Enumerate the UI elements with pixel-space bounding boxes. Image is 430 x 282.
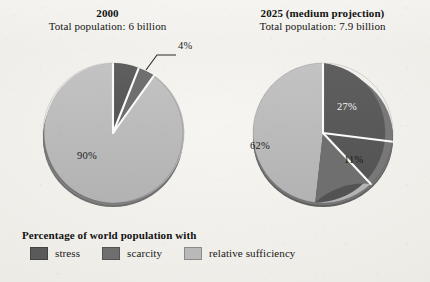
legend-item-scarcity: scarcity xyxy=(102,247,162,260)
slice-label-stress-2025: 27% xyxy=(337,101,357,112)
slice-label-relative-sufficiency-2000: 90% xyxy=(77,150,97,161)
pie-chart-2000: 6% 4% 90% xyxy=(0,0,215,225)
legend-label-relative-sufficiency: relative sufficiency xyxy=(209,247,295,260)
leader-line-scarcity-2000 xyxy=(146,55,176,70)
legend-title: Percentage of world population with xyxy=(22,228,422,242)
legend-label-stress: stress xyxy=(55,247,80,260)
chart-panel-2000: 2000 Total population: 6 billion xyxy=(0,0,215,225)
figure-canvas: 2000 Total population: 6 billion xyxy=(0,0,430,282)
relative-sufficiency-swatch xyxy=(184,247,202,260)
legend: Percentage of world population with stre… xyxy=(22,228,422,260)
scarcity-swatch xyxy=(102,247,120,260)
legend-item-stress: stress xyxy=(30,247,80,260)
stress-swatch xyxy=(30,247,48,260)
slice-label-scarcity-2025: 11% xyxy=(344,154,363,165)
slice-label-scarcity-2000: 4% xyxy=(178,40,192,51)
slice-label-relative-sufficiency-2025: 62% xyxy=(250,140,270,151)
legend-label-scarcity: scarcity xyxy=(127,247,162,260)
legend-item-relative-sufficiency: relative sufficiency xyxy=(184,247,295,260)
chart-panel-2025: 2025 (medium projection) Total populatio… xyxy=(215,0,430,225)
slice-label-stress-2000: 6% xyxy=(77,50,91,61)
pie-chart-2025: 27% 11% 62% xyxy=(215,0,430,225)
legend-items: stress scarcity relative sufficiency xyxy=(22,247,422,260)
